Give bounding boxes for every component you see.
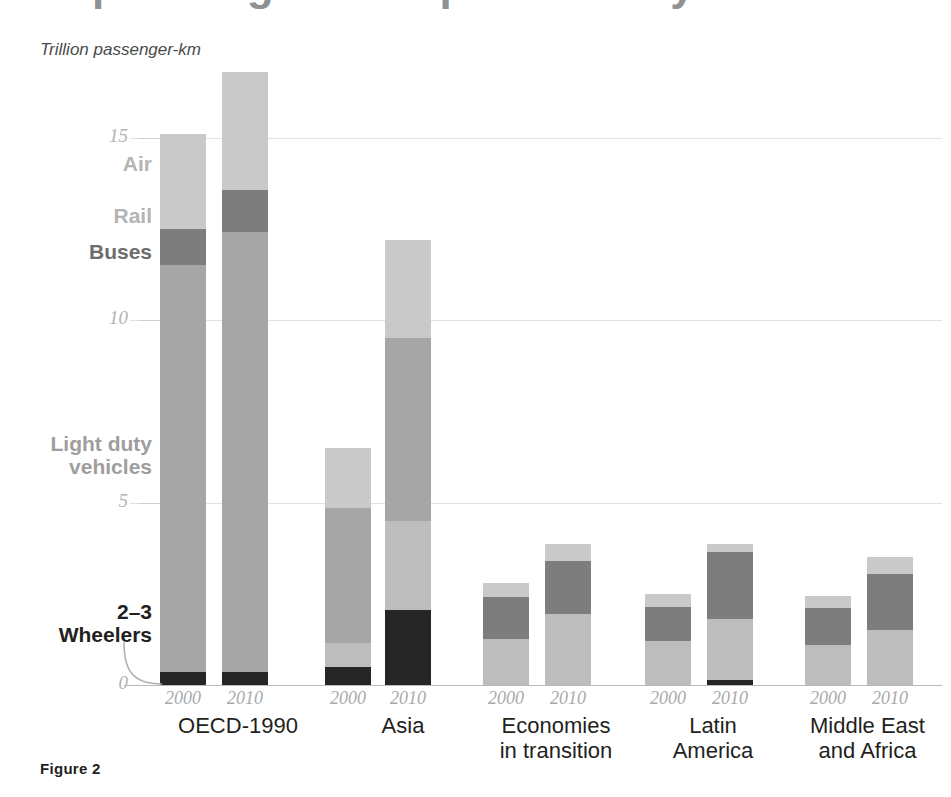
bar-oecd-1990-2010[interactable] — [222, 72, 268, 685]
wheelers-leader-line — [122, 640, 164, 686]
bar-segment-rail — [545, 614, 591, 685]
group-label-line: Economies — [456, 714, 656, 739]
series-label-air: Air — [0, 152, 152, 175]
bar-segment-buses — [545, 561, 591, 614]
bar-segment-rail — [385, 521, 431, 610]
bar-segment-air — [483, 583, 529, 598]
group-label-line: in transition — [456, 739, 656, 764]
bar-latin-america-2000[interactable] — [645, 594, 691, 685]
bar-oecd-1990-2000[interactable] — [160, 134, 206, 685]
bar-segment-buses — [160, 229, 206, 266]
series-label-buses: Buses — [0, 240, 152, 263]
bar-segment-air — [805, 596, 851, 609]
y-tick-label-10: 10 — [88, 307, 128, 329]
x-tick-year-8: 2000 — [793, 688, 863, 709]
bar-segment-light_duty — [160, 265, 206, 672]
x-tick-year-5: 2010 — [533, 688, 603, 709]
bar-segment-wheelers — [707, 680, 753, 685]
x-tick-year-9: 2010 — [855, 688, 925, 709]
bar-segment-air — [707, 544, 753, 551]
series-label-light-duty: Light duty vehicles — [0, 432, 152, 478]
bar-segment-buses — [483, 597, 529, 639]
bar-segment-buses — [867, 574, 913, 631]
tick-stub-5 — [138, 503, 160, 504]
bar-asia-2000[interactable] — [325, 448, 371, 685]
x-tick-year-4: 2000 — [471, 688, 541, 709]
bar-segment-buses — [645, 607, 691, 642]
bar-economies-in-transition-2010[interactable] — [545, 544, 591, 685]
y-tick-label-5: 5 — [88, 490, 128, 512]
bar-segment-buses — [805, 608, 851, 645]
bar-segment-light_duty — [222, 232, 268, 672]
x-tick-year-6: 2000 — [633, 688, 703, 709]
bar-segment-air — [160, 134, 206, 229]
bar-segment-air — [545, 544, 591, 560]
bar-middle-east-and-africa-2000[interactable] — [805, 596, 851, 685]
bar-segment-wheelers — [325, 667, 371, 685]
x-axis-line — [124, 685, 942, 686]
bar-segment-rail — [483, 639, 529, 685]
group-label-middle-east-and-africa: Middle Eastand Africa — [770, 714, 951, 763]
bar-segment-air — [222, 72, 268, 191]
bar-economies-in-transition-2000[interactable] — [483, 583, 529, 685]
x-tick-year-1: 2010 — [210, 688, 280, 709]
bar-segment-wheelers — [222, 672, 268, 685]
bar-segment-rail — [867, 630, 913, 685]
bar-segment-rail — [645, 641, 691, 685]
bar-segment-air — [385, 240, 431, 339]
bar-segment-air — [325, 448, 371, 508]
bar-segment-wheelers — [385, 610, 431, 685]
bar-segment-air — [867, 557, 913, 573]
bar-segment-buses — [222, 190, 268, 232]
bar-segment-light_duty — [385, 338, 431, 521]
y-tick-label-15: 15 — [88, 125, 128, 147]
bar-latin-america-2010[interactable] — [707, 544, 753, 685]
x-tick-year-3: 2010 — [373, 688, 443, 709]
x-tick-year-7: 2010 — [695, 688, 765, 709]
bar-segment-rail — [707, 619, 753, 679]
group-label-line: OECD-1990 — [148, 714, 328, 739]
bar-segment-wheelers — [160, 672, 206, 685]
group-label-line: Middle East — [770, 714, 951, 739]
tick-stub-15 — [138, 138, 160, 139]
bar-segment-buses — [707, 552, 753, 620]
bar-segment-light_duty — [325, 508, 371, 643]
series-label-rail: Rail — [0, 204, 152, 227]
bar-middle-east-and-africa-2010[interactable] — [867, 557, 913, 685]
bar-asia-2010[interactable] — [385, 240, 431, 685]
tick-stub-10 — [138, 320, 160, 321]
group-label-economies-in-transition: Economiesin transition — [456, 714, 656, 763]
figure-caption: Figure 2 — [40, 760, 101, 777]
bar-segment-rail — [805, 645, 851, 685]
group-label-oecd-1990: OECD-1990 — [148, 714, 328, 739]
bar-segment-air — [645, 594, 691, 607]
x-tick-year-0: 2000 — [148, 688, 218, 709]
group-label-line: and Africa — [770, 739, 951, 764]
bar-segment-rail — [325, 643, 371, 667]
